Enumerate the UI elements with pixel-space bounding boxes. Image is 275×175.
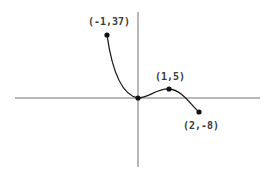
label-point-2-neg8: (2,-8) — [183, 120, 219, 131]
function-curve — [107, 35, 199, 112]
label-point-1-5: (1,5) — [155, 71, 185, 82]
point-neg1-37 — [104, 32, 109, 37]
graph-canvas: (-1,37) (1,5) (2,-8) — [0, 0, 275, 175]
point-origin — [135, 95, 140, 100]
label-point-neg1-37: (-1,37) — [88, 16, 130, 27]
point-2-neg8 — [196, 109, 201, 114]
point-1-5 — [166, 86, 171, 91]
